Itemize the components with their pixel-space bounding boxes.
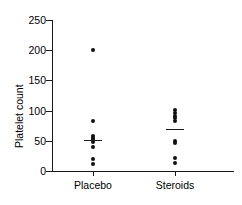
mean-line xyxy=(166,129,184,130)
data-point xyxy=(91,162,95,166)
data-point xyxy=(91,119,95,123)
mean-line xyxy=(84,140,102,141)
y-tick-label-100: 100 xyxy=(16,106,46,116)
x-tick-label-placebo: Placebo xyxy=(63,180,123,191)
data-point xyxy=(91,48,95,52)
data-point xyxy=(173,141,177,145)
data-point xyxy=(173,119,177,123)
data-point xyxy=(173,161,177,165)
data-point xyxy=(91,145,95,149)
y-tick-label-250: 250 xyxy=(16,15,46,25)
x-tick-label-steroids: Steroids xyxy=(145,180,205,191)
y-tick-label-50: 50 xyxy=(16,136,46,146)
platelet-count-dotplot: Platelet count 250 200 150 100 50 0 Plac… xyxy=(0,0,242,205)
y-tick-label-0: 0 xyxy=(16,166,46,176)
data-point xyxy=(173,156,177,160)
y-axis-spine xyxy=(52,20,53,172)
y-tick-label-200: 200 xyxy=(16,45,46,55)
x-axis-spine xyxy=(52,171,234,172)
x-tick-mark-placebo xyxy=(93,171,94,176)
y-tick-label-150: 150 xyxy=(16,75,46,85)
data-point xyxy=(91,157,95,161)
x-tick-mark-steroids xyxy=(175,171,176,176)
